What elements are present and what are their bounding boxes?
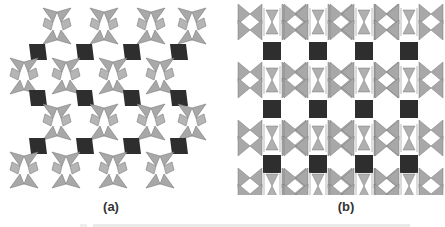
crystal-structure-b-image: [225, 0, 445, 195]
figure-panel-a: [0, 0, 225, 195]
caption-text: [80, 224, 410, 227]
panel-label-b: (b): [326, 199, 366, 214]
figure-caption-clipped: [80, 221, 410, 227]
figure-panel-b: [225, 0, 445, 195]
crystal-structure-a-image: [0, 0, 225, 195]
panel-label-a: (a): [91, 199, 131, 214]
